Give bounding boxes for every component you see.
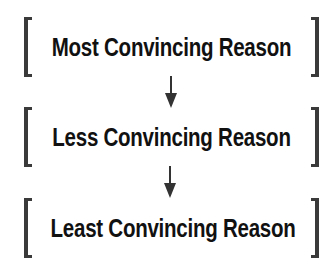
level-least-convincing: Least Convincing Reason [24, 198, 319, 258]
level-less-convincing: Less Convincing Reason [24, 107, 319, 167]
level-label: Less Convincing Reason [51, 123, 293, 152]
level-label: Most Convincing Reason [51, 33, 293, 62]
arrow-down-icon [163, 166, 177, 198]
right-bracket-icon [311, 17, 319, 77]
level-label: Least Convincing Reason [51, 214, 293, 243]
right-bracket-icon [311, 198, 319, 258]
left-bracket-icon [24, 17, 32, 77]
level-most-convincing: Most Convincing Reason [24, 17, 319, 77]
right-bracket-icon [311, 107, 319, 167]
arrow-down-icon [164, 76, 178, 108]
left-bracket-icon [24, 107, 32, 167]
left-bracket-icon [24, 198, 32, 258]
